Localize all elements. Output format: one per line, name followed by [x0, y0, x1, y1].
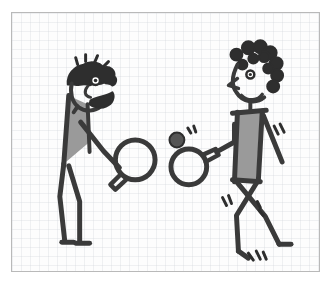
- illustration-canvas: [0, 0, 333, 285]
- right-player-mouth: [241, 94, 262, 99]
- right-foot-motion-lines-icon: [248, 251, 266, 260]
- right-player-pupil: [249, 73, 252, 76]
- right-player-arm-paddle: [217, 124, 235, 152]
- picture-frame: [11, 12, 320, 272]
- right-player-nose: [229, 78, 239, 88]
- left-player-pupil: [94, 79, 98, 83]
- left-player-nose: [85, 86, 90, 97]
- right-paddle: [171, 149, 219, 185]
- left-player-beard: [90, 92, 114, 107]
- left-player-leg-front: [69, 166, 80, 242]
- right-player-arm-back: [263, 115, 282, 162]
- ball-group: [169, 126, 195, 147]
- right-player-figure: [217, 40, 291, 260]
- table-tennis-drawing: [12, 13, 319, 271]
- ball: [169, 133, 184, 148]
- right-player-foot-left: [238, 251, 248, 258]
- right-knee-motion-lines-icon: [223, 196, 232, 206]
- left-player-figure: [60, 55, 120, 244]
- left-player-leg-back: [60, 164, 65, 241]
- ball-motion-lines-icon: [188, 126, 196, 133]
- left-paddle: [110, 140, 155, 190]
- right-arm-motion-lines-icon: [274, 124, 284, 134]
- right-player-leg-right: [236, 182, 279, 245]
